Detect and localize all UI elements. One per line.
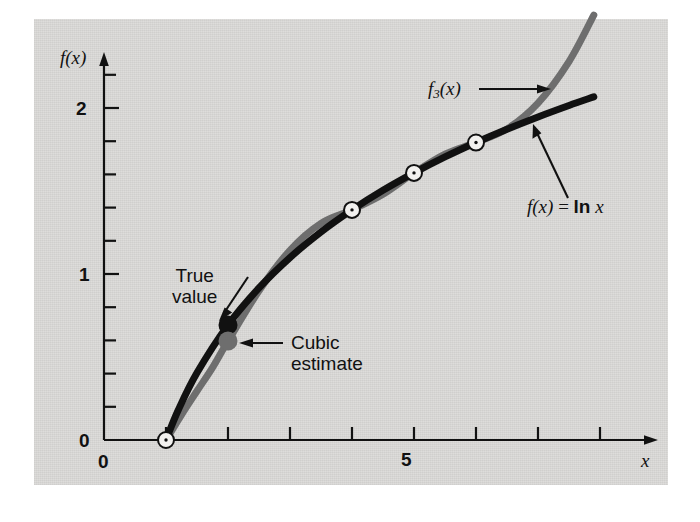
leader-true-curve bbox=[537, 133, 568, 198]
curve-true-ln bbox=[166, 97, 594, 440]
label-f3: f3(x) bbox=[428, 79, 461, 100]
label-true-curve: f(x) = ln x bbox=[527, 197, 604, 216]
interpolation-node-center bbox=[164, 438, 167, 441]
x-axis-arrowhead bbox=[644, 435, 658, 445]
x-tick-label-0: 0 bbox=[98, 452, 109, 471]
y-axis-arrowhead bbox=[99, 52, 109, 66]
arrowhead-true-curve bbox=[533, 124, 542, 139]
ln-operator: ln bbox=[574, 196, 591, 217]
y-tick-label-2: 2 bbox=[76, 99, 87, 118]
interpolation-node-center bbox=[474, 141, 477, 144]
y-tick-marks bbox=[104, 75, 119, 407]
plot-canvas bbox=[0, 0, 700, 522]
figure-container: f(x) x 2 1 0 0 5 f3(x) f(x) = ln x True … bbox=[0, 0, 700, 522]
label-cubic-estimate: Cubic estimate bbox=[291, 332, 363, 375]
y-tick-label-1: 1 bbox=[79, 265, 90, 284]
x-axis-label: x bbox=[641, 451, 649, 470]
curve-cubic-interpolant bbox=[166, 15, 594, 440]
interpolation-node-center bbox=[350, 208, 353, 211]
y-axis-label: f(x) bbox=[60, 48, 86, 67]
x-tick-label-5: 5 bbox=[401, 450, 412, 469]
axis-lines bbox=[104, 64, 646, 440]
interpolation-node-center bbox=[412, 171, 415, 174]
arrowhead-cubic-estimate bbox=[239, 338, 253, 347]
y-tick-label-0: 0 bbox=[79, 431, 90, 450]
highlight-point bbox=[219, 332, 238, 351]
label-true-value: True value bbox=[172, 265, 217, 308]
x-tick-marks bbox=[166, 427, 600, 440]
